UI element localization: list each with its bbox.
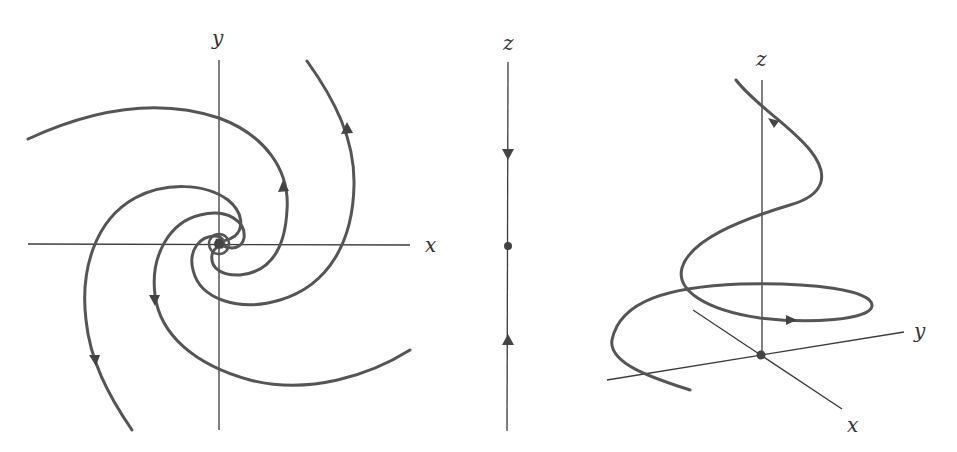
y-axis-label: y	[211, 26, 224, 50]
arrow-up-icon	[278, 180, 289, 192]
x-axis-label-3d: x	[847, 413, 858, 437]
origin-fixed-point	[214, 239, 224, 249]
arrow-down-icon	[149, 295, 160, 306]
x-axis-3d	[693, 310, 842, 409]
y-axis-3d	[607, 332, 904, 380]
figure-canvas: y x z z y x	[0, 0, 957, 452]
panel-z-line: z	[502, 31, 514, 431]
arrow-up-icon	[502, 334, 514, 345]
panel-3d-trajectory: z y x	[607, 47, 926, 437]
spiral-trajectory-a	[28, 108, 287, 275]
y-axis-label-3d: y	[913, 319, 926, 343]
arrow-right-icon	[786, 315, 797, 325]
panel-xy-phase-portrait: y x	[28, 26, 436, 430]
arrow-down-icon	[89, 355, 100, 366]
arrow-down-icon	[502, 149, 514, 160]
spiral-trajectory-d	[85, 187, 241, 430]
fixed-point-dot	[504, 242, 512, 250]
x-axis-label: x	[425, 233, 436, 257]
origin-fixed-point-3d	[757, 351, 766, 360]
z-axis-label-3d: z	[755, 47, 767, 71]
z-axis-label: z	[502, 31, 514, 55]
